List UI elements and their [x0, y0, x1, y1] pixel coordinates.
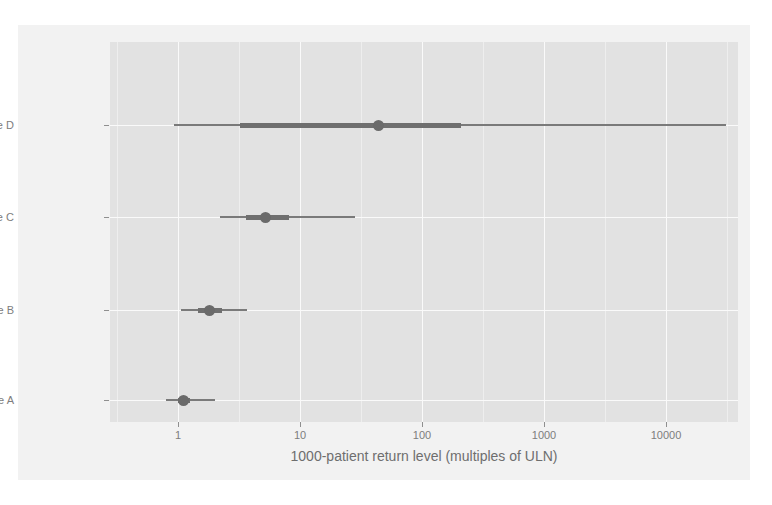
x-axis-tick-1000: [544, 422, 545, 427]
y-axis-label-dose-c: Dose C: [0, 211, 14, 223]
x-axis-label-100: 100: [413, 429, 431, 441]
x-axis-label-10: 10: [294, 429, 306, 441]
x-axis: 110100100010000: [18, 25, 750, 480]
figure-canvas: Dose ADose BDose CDose D 110100100010000…: [18, 25, 750, 480]
x-axis-label-10000: 10000: [651, 429, 682, 441]
y-axis-label-dose-d: Dose D: [0, 119, 14, 131]
x-axis-tick-10: [300, 422, 301, 427]
x-axis-tick-100: [422, 422, 423, 427]
x-axis-title: 1000-patient return level (multiples of …: [110, 448, 738, 464]
x-axis-tick-1: [178, 422, 179, 427]
x-axis-label-1: 1: [175, 429, 181, 441]
x-axis-tick-10000: [666, 422, 667, 427]
x-axis-label-1000: 1000: [532, 429, 556, 441]
y-axis-label-dose-b: Dose B: [0, 304, 14, 316]
y-axis-label-dose-a: Dose A: [0, 394, 14, 406]
